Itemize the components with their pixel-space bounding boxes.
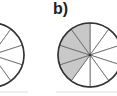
circle-b-fraction <box>58 23 117 87</box>
circle-a-fraction <box>0 23 24 87</box>
fraction-circles-diagram <box>0 0 117 96</box>
